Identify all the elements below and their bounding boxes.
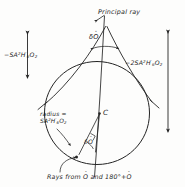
principal-ray-leader — [97, 16, 105, 21]
radius-leader-line — [57, 129, 70, 145]
formula-o-subscript: 2 — [160, 62, 163, 67]
caption-variable-2: ˆO — [127, 174, 132, 181]
right-dimension-formula-label: −2SA2H′6O2 — [125, 60, 163, 67]
inner-angle-label: δˆO — [84, 139, 93, 146]
hat-accent-icon: ˆ — [84, 171, 86, 176]
bottom-caption: Rays from ˆO and 180°+ˆO — [47, 174, 132, 181]
apex-angle-variable: ˆO — [93, 34, 98, 41]
radius-annotation: radius =SA2H′6O2 — [40, 111, 67, 125]
radius-formula: SA2H′6O2 — [40, 118, 67, 125]
center-point-marker — [98, 112, 101, 115]
caption-variable-1: ˆO — [83, 174, 88, 181]
formula-o-subscript: 2 — [35, 54, 38, 59]
tangent-ray-right-extension — [150, 100, 159, 108]
diagram-canvas: Principal ray −SA2H′6O2 −2SA2H′6O2 δˆO C… — [0, 0, 185, 187]
hat-accent-icon: ˆ — [128, 171, 130, 176]
circle-center-label: C — [103, 109, 108, 117]
right-formula-prefix: −2S — [125, 59, 139, 66]
formula-o-subscript: 2 — [64, 120, 67, 125]
caption-text-2: and 180°+ — [90, 173, 126, 180]
left-formula-prefix: −S — [4, 51, 14, 58]
apex-angle-label: δˆO — [89, 34, 99, 41]
apex-angle-arc — [93, 46, 119, 48]
radius-line-b — [96, 114, 100, 152]
left-dimension-formula-label: −SA2H′6O2 — [4, 52, 37, 59]
caption-text-1: Rays from — [47, 173, 81, 180]
hat-accent-icon: ˆ — [89, 136, 91, 141]
inner-angle-variable: ˆO — [88, 139, 93, 146]
diagram-drawing — [0, 0, 185, 187]
caption-leader-line — [60, 158, 75, 173]
hat-accent-icon: ˆ — [95, 31, 98, 37]
radius-word: radius = — [40, 111, 67, 117]
principal-ray-label: Principal ray — [98, 9, 140, 16]
tangent-point-marker — [75, 156, 78, 159]
